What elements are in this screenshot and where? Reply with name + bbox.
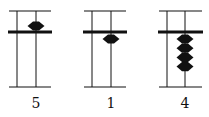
abacus-diagram: 514 — [0, 0, 209, 117]
digit-label: 5 — [32, 95, 41, 111]
lower-bead — [177, 62, 194, 71]
lower-bead — [103, 34, 120, 43]
digit-label: 4 — [181, 95, 190, 111]
digit-label: 1 — [107, 95, 116, 111]
lower-bead — [177, 34, 194, 43]
abacus-2: 1 — [83, 11, 127, 111]
lower-bead — [177, 44, 194, 53]
abacus-3: 4 — [158, 11, 203, 111]
abacus-1: 5 — [8, 11, 52, 111]
upper-bead — [28, 21, 45, 30]
lower-bead — [177, 53, 194, 62]
